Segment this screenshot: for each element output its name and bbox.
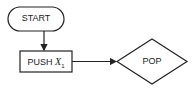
- push-label-text: PUSH: [28, 57, 56, 67]
- push-label: PUSH X1: [20, 57, 72, 69]
- start-label: START: [8, 14, 64, 23]
- push-label-sub: 1: [61, 63, 64, 69]
- pop-label: POP: [132, 57, 172, 66]
